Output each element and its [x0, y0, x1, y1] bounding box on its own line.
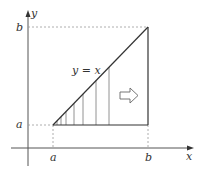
- curve-label: y = x: [71, 64, 101, 77]
- y-tick-b: b: [16, 21, 23, 34]
- y-axis-arrowhead-icon: [26, 10, 31, 17]
- x-axis: [11, 146, 194, 151]
- x-tick-b: b: [145, 151, 152, 164]
- y-tick-a: a: [16, 118, 23, 131]
- integration-region-diagram: y x b a a b y = x: [0, 0, 204, 174]
- y-axis-label: y: [30, 7, 38, 20]
- right-arrow-icon: [120, 88, 138, 103]
- x-axis-label: x: [186, 150, 193, 163]
- y-axis: [26, 10, 31, 166]
- x-tick-a: a: [50, 151, 57, 164]
